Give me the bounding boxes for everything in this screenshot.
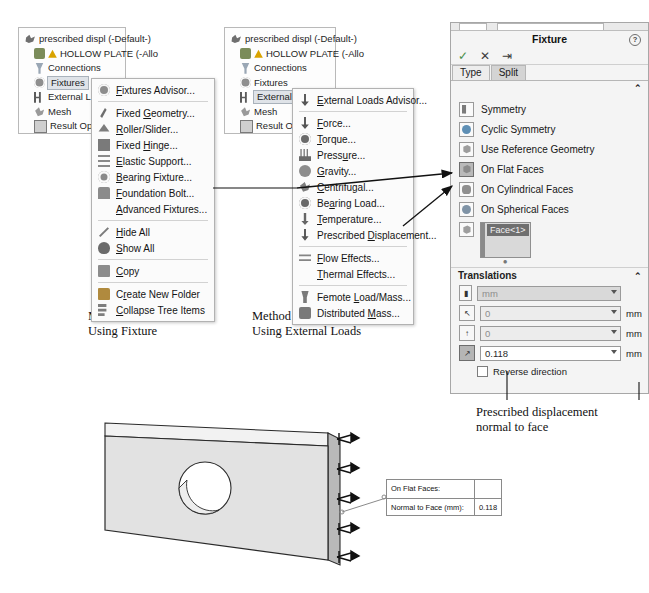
tree-item-hollow-plate-allo[interactable]: HOLLOW PLATE (-Allo (229, 47, 331, 62)
menu-item-fixtures-advisor[interactable]: Fixtures Advisor... (92, 82, 214, 98)
menu-item-foundation-bolt[interactable]: Foundation Bolt... (92, 185, 214, 201)
external-loads-context-menu[interactable]: External Loads Advisor...Force...Torque.… (292, 88, 414, 325)
translation-z-icon[interactable]: ↗ (459, 345, 475, 361)
tree-item-hollow-plate-allo[interactable]: HOLLOW PLATE (-Allo (23, 47, 121, 62)
type-section-header[interactable]: ⌃ (451, 81, 648, 95)
chevron-up-icon[interactable]: ⌃ (634, 83, 642, 93)
menu-item-fixed-geometry[interactable]: Fixed Geometry... (92, 105, 214, 121)
chevron-down-icon[interactable] (611, 310, 617, 314)
resize-grip-icon[interactable]: ● (480, 258, 531, 265)
menu-item-hide-all[interactable]: Hide All (92, 224, 214, 240)
force-icon (299, 117, 311, 129)
help-icon[interactable]: ? (629, 34, 641, 46)
fixture-option-use-reference-geometry[interactable]: Use Reference Geometry (451, 139, 648, 159)
mesh-icon (240, 106, 251, 117)
selected-entity-item[interactable]: Face<1> (487, 224, 529, 236)
panel-tabs[interactable]: TypeSplit (451, 65, 648, 81)
panel-action-bar: ✓ ✕ ⇥ (451, 47, 648, 65)
translation-row-2[interactable]: ↑0mm (451, 323, 648, 343)
menu-item-label: Fixtures Advisor... (116, 84, 195, 97)
menu-item-flow-effects[interactable]: Flow Effects... (293, 250, 413, 266)
fixture-option-on-flat-faces[interactable]: On Flat Faces (451, 159, 648, 179)
translation-x-icon[interactable]: ↖ (459, 305, 475, 321)
menu-separator (98, 259, 208, 260)
fixture-property-manager[interactable]: Fixture ? ✓ ✕ ⇥ TypeSplit ⌃ SymmetryCycl… (450, 22, 649, 394)
fixture-option-cyclic-symmetry[interactable]: Cyclic Symmetry (451, 119, 648, 139)
cancel-x-icon[interactable]: ✕ (480, 49, 490, 63)
menu-item-temperature[interactable]: Temperature... (293, 211, 413, 227)
translation-value-field-1[interactable]: 0 (480, 306, 621, 321)
menu-item-collapse-tree-items[interactable]: Collapse Tree Items (92, 302, 214, 318)
property-manager-tabstrip[interactable] (451, 23, 648, 31)
fixtures-context-menu[interactable]: Fixtures Advisor...Fixed Geometry...Roll… (91, 78, 215, 322)
menu-item-copy[interactable]: Copy (92, 263, 214, 279)
translation-y-icon[interactable]: ↑ (459, 325, 475, 341)
chevron-up-icon-translations[interactable]: ⌃ (634, 271, 642, 281)
tab-type[interactable]: Type (452, 65, 490, 80)
translation-row-3[interactable]: ↗0.118mm (451, 343, 648, 363)
tree-item-label: External L (48, 91, 91, 103)
menu-item-gravity[interactable]: Gravity... (293, 163, 413, 179)
menu-item-label: Copy (116, 265, 139, 278)
menu-item-femote-load-mass[interactable]: Femote Load/Mass... (293, 289, 413, 305)
fixtures-icon (240, 77, 251, 88)
menu-item-advanced-fixtures[interactable]: Advanced Fixtures... (92, 201, 214, 217)
reverse-direction-checkbox[interactable] (477, 366, 488, 377)
tree-item-connections[interactable]: Connections (229, 61, 331, 76)
menu-item-thermal-effects[interactable]: Thermal Effects... (293, 266, 413, 282)
external-loads-icon (240, 92, 251, 103)
menu-item-label: Femote Load/Mass... (317, 291, 411, 304)
accept-checkmark-icon[interactable]: ✓ (458, 49, 468, 63)
temperature-icon (299, 213, 311, 225)
units-row[interactable]: ▮ mm (451, 283, 648, 303)
tree-item-connections[interactable]: Connections (23, 61, 121, 76)
translation-row-1[interactable]: ↖0mm (451, 303, 648, 323)
tree-item-prescribed-displ-default[interactable]: prescribed displ (-Default-) (229, 32, 331, 47)
menu-item-prescribed-displacement[interactable]: Prescribed Displacement... (293, 227, 413, 243)
reverse-direction-row[interactable]: Reverse direction (451, 363, 648, 377)
fixed-geometry-icon (98, 107, 110, 119)
translation-value: 0 (485, 308, 490, 319)
translation-value-field-2[interactable]: 0 (480, 326, 621, 341)
menu-item-bearing-fixture[interactable]: Bearing Fixture... (92, 169, 214, 185)
menu-item-external-loads-advisor[interactable]: External Loads Advisor... (293, 92, 413, 108)
fixture-option-on-cylindrical-faces[interactable]: On Cylindrical Faces (451, 179, 648, 199)
tree-item-label: HOLLOW PLATE (-Allo (266, 48, 364, 60)
chevron-down-icon[interactable] (611, 290, 617, 294)
translation-unit-label: mm (626, 328, 642, 339)
tab-split[interactable]: Split (491, 65, 526, 80)
fixture-option-symmetry[interactable]: Symmetry (451, 99, 648, 119)
menu-item-label: Force... (317, 117, 351, 130)
tree-item-label: Result Op (50, 120, 92, 132)
translation-value-field-3[interactable]: 0.118 (480, 346, 621, 361)
units-select[interactable]: mm (477, 286, 621, 301)
torque-icon (299, 133, 311, 145)
menu-item-create-new-folder[interactable]: Create New Folder (92, 286, 214, 302)
menu-item-pressure[interactable]: Pressure... (293, 147, 413, 163)
menu-item-torque[interactable]: Torque... (293, 131, 413, 147)
menu-item-elastic-support[interactable]: Elastic Support... (92, 153, 214, 169)
selected-entities-box[interactable]: Face<1> (480, 222, 531, 258)
menu-item-centrifugal[interactable]: Centrifugal... (293, 179, 413, 195)
fixture-type-options[interactable]: SymmetryCyclic SymmetryUse Reference Geo… (451, 95, 648, 219)
callout-row-1: On Flat Faces: (387, 480, 501, 499)
fixture-option-on-spherical-faces[interactable]: On Spherical Faces (451, 199, 648, 219)
menu-item-show-all[interactable]: Show All (92, 240, 214, 256)
menu-item-roller-slider[interactable]: Roller/Slider... (92, 121, 214, 137)
menu-item-force[interactable]: Force... (293, 115, 413, 131)
translation-fields[interactable]: ↖0mm↑0mm↗0.118mm (451, 303, 648, 363)
menu-separator (299, 285, 407, 286)
menu-item-bearing-load[interactable]: Bearing Load... (293, 195, 413, 211)
callout-label-1: On Flat Faces: (387, 480, 475, 498)
tree-item-label: prescribed displ (-Default-) (245, 33, 357, 45)
pin-icon[interactable]: ⇥ (502, 49, 512, 63)
menu-item-fixed-hinge[interactable]: Fixed Hinge... (92, 137, 214, 153)
tree-item-prescribed-displ-default[interactable]: prescribed displ (-Default-) (23, 32, 121, 47)
face-selection-row[interactable]: Face<1> ● (451, 219, 648, 265)
chevron-down-icon[interactable] (611, 330, 617, 334)
chevron-down-icon[interactable] (611, 350, 617, 354)
translations-section-header[interactable]: Translations ⌃ (451, 267, 648, 283)
menu-item-distributed-mass[interactable]: Distributed Mass... (293, 305, 413, 321)
tree-item-label: Fixtures (47, 76, 89, 90)
panel-title-bar: Fixture ? (451, 31, 648, 47)
